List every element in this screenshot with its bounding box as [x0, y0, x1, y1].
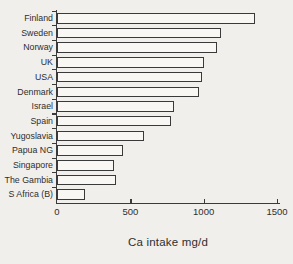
category-label-finland: Finland — [0, 11, 53, 25]
bar-s-africa-b — [57, 189, 85, 200]
category-label-papua-ng: Papua NG — [0, 143, 53, 157]
y-axis-tick — [52, 11, 57, 12]
chart-figure: FinlandSwedenNorwayUKUSADenmarkIsraelSpa… — [0, 0, 293, 264]
category-label-usa: USA — [0, 70, 53, 84]
x-axis-tick-label-1500: 1500 — [262, 206, 292, 217]
bar-norway — [57, 42, 217, 53]
x-axis-tick-label-1000: 1000 — [189, 206, 219, 217]
y-axis-tick — [52, 99, 57, 100]
y-axis-tick — [52, 158, 57, 159]
x-axis-tick-label-0: 0 — [42, 206, 72, 217]
y-axis-tick — [52, 69, 57, 70]
y-axis-tick — [52, 113, 57, 114]
x-axis-tick-label-500: 500 — [115, 206, 145, 217]
bar-usa — [57, 72, 202, 83]
x-axis-line — [56, 203, 280, 204]
y-axis-tick — [52, 25, 57, 26]
x-axis-title: Ca intake mg/d — [57, 236, 279, 248]
bar-uk — [57, 57, 204, 68]
bar-papua-ng — [57, 145, 123, 156]
category-label-israel: Israel — [0, 99, 53, 113]
y-axis-tick — [52, 84, 57, 85]
y-axis-tick — [52, 128, 57, 129]
category-label-singapore: Singapore — [0, 158, 53, 172]
y-axis-tick — [52, 143, 57, 144]
category-label-the-gambia: The Gambia — [0, 173, 53, 187]
y-axis-tick — [52, 187, 57, 188]
bar-sweden — [57, 28, 221, 39]
bar-singapore — [57, 160, 114, 171]
category-label-sweden: Sweden — [0, 26, 53, 40]
bar-the-gambia — [57, 175, 116, 186]
y-axis-tick — [52, 172, 57, 173]
category-label-yugoslavia: Yugoslavia — [0, 129, 53, 143]
bar-denmark — [57, 87, 199, 98]
y-axis-tick — [52, 40, 57, 41]
category-label-spain: Spain — [0, 114, 53, 128]
bar-finland — [57, 13, 255, 24]
x-axis-tick-1500 — [277, 199, 278, 204]
category-label-s-africa-b: S Africa (B) — [0, 187, 53, 201]
bar-israel — [57, 101, 174, 112]
bar-spain — [57, 116, 171, 127]
category-label-denmark: Denmark — [0, 85, 53, 99]
category-label-norway: Norway — [0, 40, 53, 54]
category-label-uk: UK — [0, 55, 53, 69]
y-axis-tick — [52, 55, 57, 56]
x-axis-tick-500 — [130, 199, 131, 204]
bar-yugoslavia — [57, 131, 144, 142]
x-axis-tick-1000 — [204, 199, 205, 204]
